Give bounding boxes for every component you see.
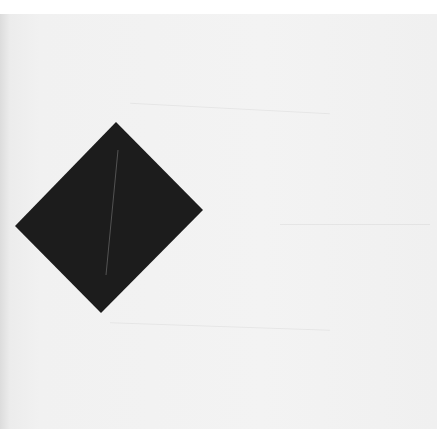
diamond-shape xyxy=(0,0,447,437)
